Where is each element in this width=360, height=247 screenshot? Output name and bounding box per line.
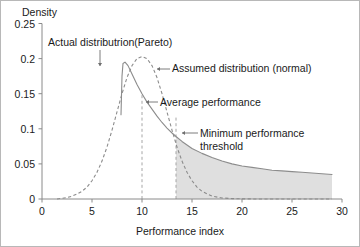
minimum-threshold-label-line1: Minimum performance [200, 127, 304, 139]
actual-distribution-label: Actual distributrion(Pareto) [48, 36, 172, 49]
y-tick-label: 0.15 [0, 88, 35, 99]
x-tick-label: 15 [186, 206, 198, 217]
x-tick-label: 10 [136, 206, 148, 217]
actual-distribution-curve [121, 62, 332, 174]
y-tick-label: 0 [0, 194, 35, 205]
minimum-threshold-label-line2: threshold [200, 140, 243, 152]
chart-figure: Density Performance index 00.050.10.150.… [0, 0, 360, 247]
y-tick-label: 0.1 [0, 123, 35, 134]
y-tick-label: 0.25 [0, 18, 35, 29]
x-tick-label: 0 [39, 206, 45, 217]
x-axis-title: Performance index [0, 225, 360, 237]
x-tick-label: 25 [286, 206, 298, 217]
y-tick-label: 0.2 [0, 53, 35, 64]
x-tick-label: 20 [236, 206, 248, 217]
x-tick-label: 30 [336, 206, 348, 217]
y-tick-label: 0.05 [0, 158, 35, 169]
average-performance-label: Average performance [160, 96, 261, 109]
minimum-threshold-label: Minimum performance threshold [200, 127, 330, 152]
vertical-marker-lines [142, 95, 176, 199]
assumed-distribution-label: Assumed distribution (normal) [172, 62, 311, 75]
x-tick-label: 5 [89, 206, 95, 217]
